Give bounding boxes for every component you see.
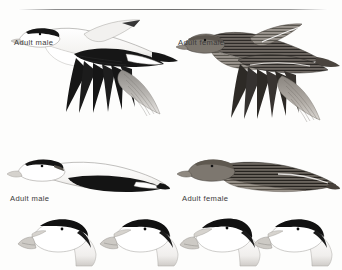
label-adult-female-lower: Adult female [182, 194, 228, 203]
top-divider-rule [18, 9, 328, 10]
figure-flying-male-upper [14, 14, 179, 139]
head-study-1 [22, 212, 114, 266]
head-study-2 [104, 212, 196, 266]
head-study-4 [258, 212, 342, 266]
figure-flying-female-upper [178, 12, 340, 140]
illustration-plate: Adult male [0, 0, 342, 270]
label-adult-male-upper: Adult male [14, 38, 53, 47]
label-adult-female-upper: Adult female [178, 38, 224, 47]
label-adult-male-lower: Adult male [10, 194, 49, 203]
